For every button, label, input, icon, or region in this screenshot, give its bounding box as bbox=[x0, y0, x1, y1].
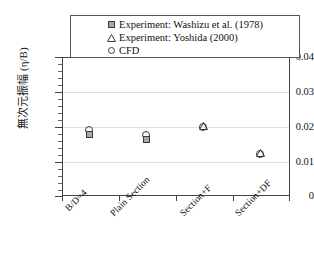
filled-square-icon bbox=[105, 21, 117, 28]
data-point-washizu-1 bbox=[86, 131, 93, 138]
y-axis-title: 無次元振幅 (η/B) bbox=[14, 28, 30, 148]
data-point-cfd-4 bbox=[256, 150, 264, 158]
chart-legend: Experiment: Washizu et al. (1978) Experi… bbox=[70, 15, 300, 58]
legend-label-yoshida: Experiment: Yoshida (2000) bbox=[119, 32, 238, 43]
legend-label-cfd: CFD bbox=[119, 45, 139, 56]
legend-label-washizu: Experiment: Washizu et al. (1978) bbox=[119, 19, 263, 30]
x-tick-0 bbox=[62, 196, 63, 201]
plot-area bbox=[62, 57, 290, 196]
chart-figure: 無次元振幅 (η/B) 0.04 0.03 0.02 0.01 0 bbox=[0, 0, 314, 270]
gridline-002 bbox=[63, 127, 289, 128]
gridline-001 bbox=[63, 162, 289, 163]
legend-entry-washizu: Experiment: Washizu et al. (1978) bbox=[105, 18, 299, 31]
y-axis-title-text: 無次元振幅 (η/B) bbox=[17, 47, 29, 128]
legend-entry-yoshida: Experiment: Yoshida (2000) bbox=[105, 31, 299, 44]
data-point-cfd-3 bbox=[199, 123, 207, 131]
x-tick-4 bbox=[289, 196, 290, 201]
x-tick-2 bbox=[176, 196, 177, 201]
data-point-washizu-2 bbox=[143, 136, 150, 143]
legend-entry-cfd: CFD bbox=[105, 44, 299, 57]
open-circle-icon bbox=[105, 47, 117, 54]
gridline-003 bbox=[63, 92, 289, 93]
open-triangle-icon bbox=[105, 34, 117, 42]
x-tick-3 bbox=[233, 196, 234, 201]
